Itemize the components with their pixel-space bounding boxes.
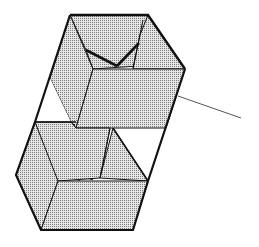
box-kite-diagram xyxy=(0,0,259,247)
kite-string xyxy=(178,96,241,118)
lower-cell xyxy=(16,122,148,230)
lower-front-panel xyxy=(41,181,148,230)
box-kite-drawing xyxy=(0,0,259,247)
